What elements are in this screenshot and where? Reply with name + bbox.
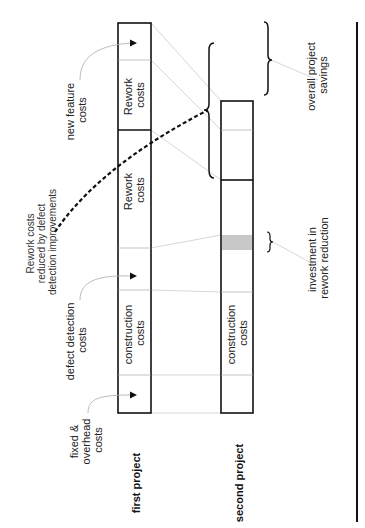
overall-savings-label: overall project savings — [305, 39, 329, 111]
first-project-label: first project — [130, 452, 142, 513]
second-project-bar — [221, 101, 253, 413]
second-project-outline — [221, 101, 253, 413]
savings-brace — [264, 22, 272, 95]
rework-reduction-brace — [204, 43, 214, 178]
investment-brace — [267, 232, 273, 252]
second-project-label: second project — [233, 444, 245, 523]
investment-label: investment in rework reduction — [306, 217, 330, 298]
rework-reduced-label: Rework costs reduced by defect detection… — [25, 189, 58, 295]
fixed-overhead-label: fixed & overhead costs — [68, 416, 104, 465]
investment-segment — [222, 235, 252, 250]
defect-detection-label: defect detection costs — [64, 300, 88, 381]
cost-comparison-diagram: Rework costs Rework costs construction c… — [0, 0, 365, 528]
new-feature-label: new feature costs — [64, 80, 88, 141]
